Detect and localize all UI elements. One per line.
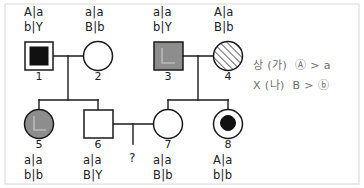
genotype-7-line2: B|b (153, 169, 173, 181)
id-label-1: 1 (29, 71, 49, 83)
individual-2[interactable] (84, 42, 113, 71)
individual-7[interactable] (154, 110, 183, 139)
genotype-3-line1: a|a (153, 6, 172, 18)
genotype-5-line2: b|b (24, 169, 43, 181)
symbol-female-2[interactable] (84, 42, 113, 71)
individual-4[interactable] (214, 42, 243, 71)
id-label-3: 3 (158, 71, 178, 83)
id-label-2: 2 (88, 71, 108, 83)
id-label-7: 7 (158, 139, 178, 151)
unknown-offspring-label: ? (129, 152, 135, 165)
genotype-8-line1: A|a (213, 154, 233, 166)
genotype-3-line2: b|Y (153, 21, 172, 33)
genotype-6-line2: B|Y (83, 169, 103, 181)
symbol-female-7[interactable] (154, 110, 183, 139)
id-label-6: 6 (88, 139, 108, 151)
genotype-7-line1: a|a (153, 154, 172, 166)
individual-6[interactable] (84, 110, 113, 138)
connector-lines (39, 56, 228, 144)
diagram-border (5, 4, 359, 184)
legend-line-x-linked: X (나) B > ⓑ (253, 80, 329, 92)
genotype-4-line1: A|a (214, 6, 234, 18)
genotype-1-line1: A|a (24, 6, 44, 18)
genotype-2-line2: B|b (85, 21, 105, 33)
genotype-8-line2: b|b (213, 169, 232, 181)
pedigree-diagram (0, 0, 364, 188)
individual-5[interactable] (25, 110, 54, 139)
affected-fill-1 (30, 47, 48, 65)
symbol-female-5[interactable] (25, 110, 54, 139)
genotype-2-line1: a|a (85, 6, 104, 18)
id-label-8: 8 (218, 139, 238, 151)
individual-3[interactable] (154, 42, 183, 70)
id-label-5: 5 (29, 139, 49, 151)
genotype-4-line2: B|b (214, 21, 234, 33)
individual-8[interactable] (214, 110, 243, 139)
genotype-5-line1: a|a (24, 154, 43, 166)
genotype-1-line2: b|Y (24, 21, 43, 33)
affected-fill-8 (221, 116, 236, 131)
id-label-4: 4 (218, 71, 238, 83)
symbol-female-4[interactable] (214, 42, 243, 71)
genotype-6-line1: a|a (83, 154, 102, 166)
symbol-male-6[interactable] (84, 110, 113, 138)
individual-1[interactable] (25, 42, 53, 70)
legend-line-autosomal: 상 (가) Ⓐ > a (253, 60, 331, 72)
symbol-male-3[interactable] (154, 42, 183, 70)
